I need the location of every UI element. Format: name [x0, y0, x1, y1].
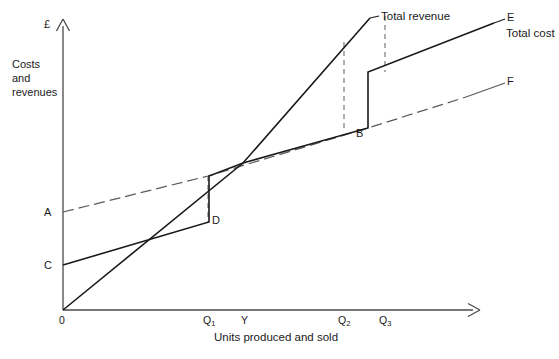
total-revenue-line — [63, 18, 370, 310]
x-axis — [63, 304, 480, 317]
x-tick-q2: Q2 — [338, 314, 350, 328]
f-leader — [466, 83, 505, 97]
x-tick-q1: Q1 — [203, 314, 215, 328]
chart-canvas — [0, 0, 559, 359]
x-tick-q1-sub: 1 — [211, 319, 215, 328]
point-label-c: C — [44, 259, 52, 272]
x-tick-q1-base: Q — [203, 314, 211, 326]
y-axis — [57, 19, 70, 310]
point-label-d: D — [212, 214, 220, 227]
break-even-chart: £ Costs and revenues A C D B E F Total r… — [0, 0, 559, 359]
droplines-group — [208, 16, 385, 222]
x-tick-q3-sub: 3 — [387, 319, 391, 328]
y-axis-unit-label: £ — [44, 18, 50, 31]
x-tick-q2-base: Q — [338, 314, 346, 326]
x-tick-break-even: Y — [241, 314, 248, 327]
e-leader — [494, 19, 505, 23]
series-label-total-revenue: Total revenue — [381, 10, 450, 23]
y-axis-title-line2: and — [12, 72, 30, 86]
x-axis-title: Units produced and sold — [214, 331, 338, 344]
x-tick-q3-base: Q — [379, 314, 387, 326]
total-cost-line — [63, 23, 494, 265]
x-tick-q3: Q3 — [379, 314, 391, 328]
x-tick-origin: 0 — [59, 314, 65, 327]
total-revenue-leader — [370, 16, 379, 18]
y-axis-title-line3: revenues — [12, 86, 57, 100]
x-tick-q2-sub: 2 — [346, 319, 350, 328]
series-label-total-cost: Total cost — [506, 27, 555, 40]
dashed-total-cost-line — [63, 97, 466, 212]
y-axis-title-line1: Costs — [12, 58, 40, 72]
point-label-b: B — [356, 127, 363, 140]
point-label-e: E — [507, 11, 514, 24]
point-label-f: F — [507, 75, 514, 88]
point-label-a: A — [44, 206, 51, 219]
